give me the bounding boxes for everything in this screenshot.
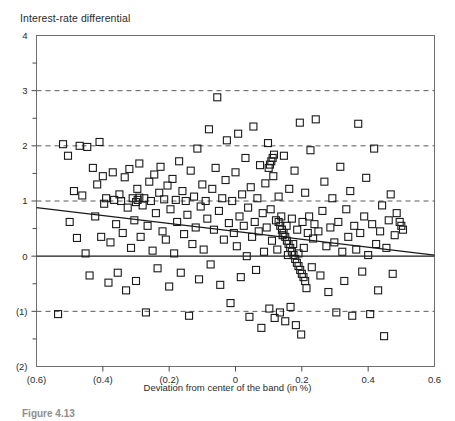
data-point [274,246,281,253]
data-point [311,221,318,228]
data-point [361,213,368,220]
data-point [365,252,372,259]
data-point [66,218,73,225]
data-point [233,243,240,250]
data-point [146,178,153,185]
data-point [107,239,114,246]
data-point [162,236,169,243]
data-point [333,309,340,316]
data-point [383,244,390,251]
data-point [136,160,143,167]
data-point [240,222,247,229]
data-point [308,264,315,271]
data-point [317,272,324,279]
data-point [249,233,256,240]
data-point [275,193,282,200]
data-point [128,244,135,251]
data-point [306,213,313,220]
data-point [347,188,354,195]
data-point [214,94,221,101]
data-point [113,221,120,228]
y-tick-label: 2 [22,140,27,151]
data-point [393,210,400,217]
data-point [144,222,151,229]
data-point [345,233,352,240]
scatter-plot: (2)(1)01234(0.6)(0.4)(0.2)00.20.40.6 [0,0,455,421]
data-point [89,164,96,171]
data-point [355,120,362,127]
data-point [121,174,128,181]
data-point [325,289,332,296]
data-point [379,202,386,209]
data-point [94,181,101,188]
data-point [172,196,179,203]
figure-container: Interest-rate differential (2)(1)01234(0… [0,0,455,421]
data-point [377,228,384,235]
data-point [303,285,310,292]
data-point [341,277,348,284]
data-point [253,266,260,273]
data-point [227,300,234,307]
data-point [235,130,242,137]
data-point [225,220,232,227]
data-point [223,137,230,144]
data-point [199,181,206,188]
data-point [291,167,298,174]
data-point [186,312,193,319]
data-point [267,206,274,213]
data-point [375,287,382,294]
data-point [65,152,72,159]
data-point [337,163,344,170]
data-point [222,177,229,184]
data-point [268,237,275,244]
data-point [179,188,186,195]
y-tick-label: 3 [22,85,27,96]
data-point [261,248,268,255]
data-point [391,232,398,239]
figure-caption: Figure 4.13 [22,408,75,421]
data-point [373,241,380,248]
data-point [321,178,328,185]
data-point [298,331,305,338]
data-point [239,191,246,198]
data-point [191,193,198,200]
data-point [287,303,294,310]
data-point [232,169,239,176]
data-point [288,215,295,222]
data-point [343,206,350,213]
data-point [315,228,322,235]
data-point [204,215,211,222]
data-point [73,234,80,241]
data-point [387,191,394,198]
data-point [246,313,253,320]
data-point [389,270,396,277]
data-point [263,224,270,231]
data-point [137,233,144,240]
data-point [270,173,277,180]
data-point [134,185,141,192]
data-point [296,119,303,126]
data-point [177,269,184,276]
data-point [282,318,289,325]
data-point [369,221,376,228]
data-point [319,207,326,214]
data-point [131,217,138,224]
y-tick-label: 4 [22,30,27,41]
data-point [351,222,358,229]
data-point [242,154,249,161]
data-point [307,147,314,154]
data-point [99,173,106,180]
data-point [124,204,131,211]
data-point [105,279,112,286]
data-point [187,167,194,174]
data-point [96,138,103,145]
data-point [167,206,174,213]
data-point [247,184,254,191]
data-point [245,204,252,211]
data-point [286,185,293,192]
y-tick-label: 0 [22,251,27,262]
data-point [359,268,366,275]
data-point [294,226,301,233]
data-point [292,322,299,329]
data-point [98,233,105,240]
